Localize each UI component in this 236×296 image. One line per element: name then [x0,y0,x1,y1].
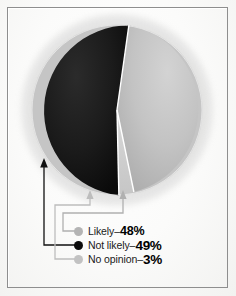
legend-label-no-opinion: No opinion [88,253,137,265]
legend-item-not-likely: Not likely – 49% [74,238,224,252]
legend-label-likely: Likely [88,225,114,237]
pie-svg [31,24,203,196]
legend-value-not-likely: 49% [135,238,161,253]
pie-chart-figure: Likely – 48% Not likely – 49% No opinion… [0,0,236,296]
legend-dot-not-likely [74,241,83,250]
legend-value-no-opinion: 3% [143,252,162,267]
legend-value-likely: 48% [120,224,144,238]
legend-item-no-opinion: No opinion – 3% [74,252,224,266]
pie-chart [31,24,203,196]
chart-legend: Likely – 48% Not likely – 49% No opinion… [74,224,224,266]
legend-dot-no-opinion [74,255,83,264]
legend-dot-likely [74,227,83,236]
legend-item-likely: Likely – 48% [74,224,224,238]
legend-label-not-likely: Not likely [88,239,130,251]
